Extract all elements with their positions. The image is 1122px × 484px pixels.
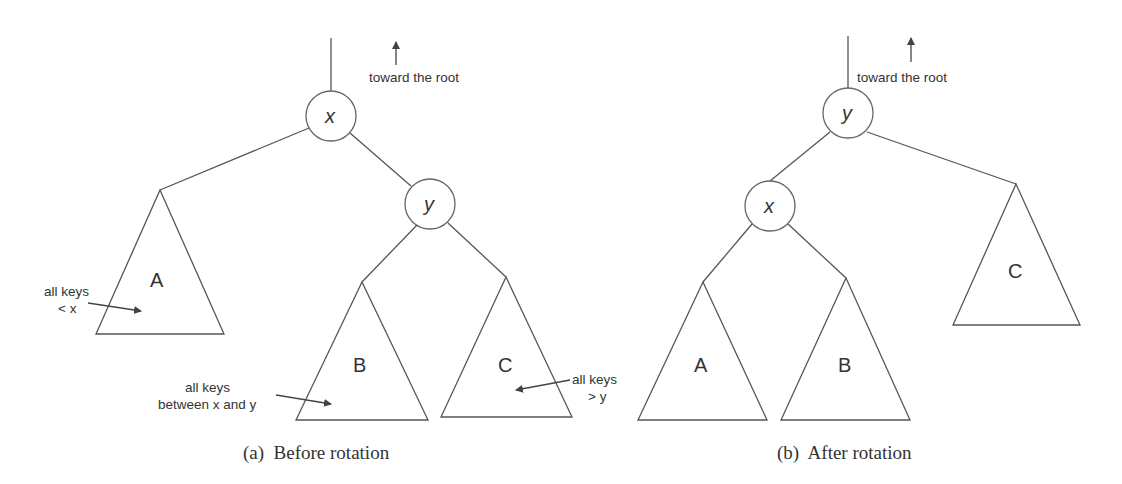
subtree-C: C [441,277,572,417]
svg-text:B: B [838,354,851,376]
caption-after: (b) After rotation [777,442,912,464]
subtree-B: B [781,278,910,420]
edge-x-y [350,133,411,186]
edge-x-A [703,224,752,282]
toward-root-label: toward the root [369,70,459,85]
svg-text:between x and y: between x and y [158,397,257,412]
caption-before: (a) Before rotation [243,442,390,464]
svg-text:< x: < x [58,301,77,316]
svg-text:all keys: all keys [44,284,89,299]
subtree-B: B [296,282,428,420]
node-x: x [745,181,795,231]
edge-y-C [448,223,506,277]
toward-root-label: toward the root [857,70,947,85]
node-y: y [405,179,455,229]
edge-x-B [788,224,846,278]
svg-text:A: A [694,354,708,376]
svg-text:A: A [150,269,164,291]
node-x: x [306,91,356,141]
svg-text:all keys: all keys [572,372,617,387]
subtree-A: A [638,282,767,420]
svg-text:y: y [840,102,853,124]
before-rotation-panel: toward the root A B C x y [44,38,617,464]
edge-y-x [770,132,830,181]
rotation-diagram: toward the root A B C x y [0,0,1122,484]
node-y: y [823,88,873,138]
svg-text:x: x [324,105,336,127]
svg-text:C: C [1008,260,1022,282]
subtree-C: C [953,184,1080,325]
svg-text:x: x [763,195,775,217]
svg-text:> y: > y [588,389,607,404]
after-rotation-panel: toward the root A B C y x (b) After rota… [638,36,1080,464]
svg-text:all keys: all keys [185,380,230,395]
svg-text:y: y [422,193,435,215]
subtree-A: A [96,190,224,334]
svg-text:B: B [353,354,366,376]
edge-y-C [867,132,1016,184]
edge-y-B [362,225,417,282]
svg-text:C: C [498,354,512,376]
edge-x-A [160,128,309,190]
